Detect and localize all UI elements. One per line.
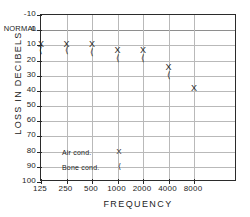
gridline-horizontal	[41, 121, 235, 122]
gridline-horizontal	[41, 106, 235, 107]
y-tick-label: 20	[2, 56, 36, 64]
legend-symbol: X	[113, 148, 125, 156]
gridline-horizontal	[41, 136, 235, 137]
y-tick-mark	[37, 15, 42, 16]
data-point-bone-cond: ⟨	[112, 54, 124, 63]
y-tick-label: -10	[2, 10, 36, 18]
x-tick-mark	[67, 179, 68, 184]
x-tick-mark	[169, 179, 170, 184]
legend-label: Bone cond.	[62, 164, 99, 171]
y-tick-label: 30	[2, 71, 36, 79]
y-tick-mark	[37, 121, 42, 122]
y-tick-label: 90	[2, 162, 36, 170]
y-tick-label: 100	[2, 177, 36, 185]
y-tick-label: 60	[2, 116, 36, 124]
data-point-bone-cond: ⟨	[137, 54, 149, 63]
legend-label: Air cond.	[62, 149, 91, 156]
x-tick-mark	[143, 179, 144, 184]
gridline-horizontal	[41, 91, 235, 92]
y-tick-mark	[37, 167, 42, 168]
data-point-bone-cond: ⟨	[86, 48, 98, 57]
data-point-bone-cond: ⟨	[61, 46, 73, 55]
y-tick-label: 80	[2, 147, 36, 155]
x-tick-mark	[118, 179, 119, 184]
data-point-air-cond: X	[188, 84, 200, 93]
y-tick-mark	[37, 106, 42, 107]
y-tick-label: 0	[2, 25, 36, 33]
data-point-bone-cond: ⟨	[163, 71, 175, 80]
plot-area: XXXXXXX⟨⟨⟨⟨⟨⟨ Air cond.XBone cond.⟨	[40, 14, 236, 181]
x-tick-mark	[92, 179, 93, 184]
data-point-bone-cond: ⟨	[35, 46, 47, 55]
y-tick-mark	[37, 76, 42, 77]
legend-symbol: ⟨	[113, 163, 125, 171]
x-axis-title: FREQUENCY	[40, 199, 236, 209]
y-tick-mark	[37, 61, 42, 62]
y-tick-mark	[37, 91, 42, 92]
audiogram-chart: LOSS IN DECIBELS NORMAL -100102030405060…	[0, 0, 250, 217]
y-tick-label: 50	[2, 101, 36, 109]
gridline-horizontal	[41, 76, 235, 77]
y-tick-mark	[37, 30, 42, 31]
gridline-vertical	[169, 15, 170, 180]
gridline-vertical	[143, 15, 144, 180]
gridline-vertical	[194, 15, 195, 180]
x-tick-label: 8000	[173, 185, 213, 193]
y-tick-mark	[37, 136, 42, 137]
y-tick-label: 70	[2, 131, 36, 139]
y-tick-mark	[37, 152, 42, 153]
y-tick-label: 10	[2, 40, 36, 48]
x-tick-mark	[41, 179, 42, 184]
x-tick-mark	[194, 179, 195, 184]
y-tick-label: 40	[2, 86, 36, 94]
normal-reference-line	[41, 30, 235, 31]
